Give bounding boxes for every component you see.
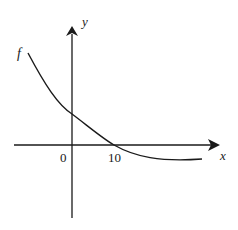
tick-label-10: 10 [108,150,121,165]
function-label: f [17,46,23,61]
tick-label-0: 0 [60,150,67,165]
y-axis-label: y [80,14,88,29]
curve-f [28,53,202,160]
x-axis-label: x [219,148,226,163]
function-graph: f y x 0 10 [0,0,238,230]
